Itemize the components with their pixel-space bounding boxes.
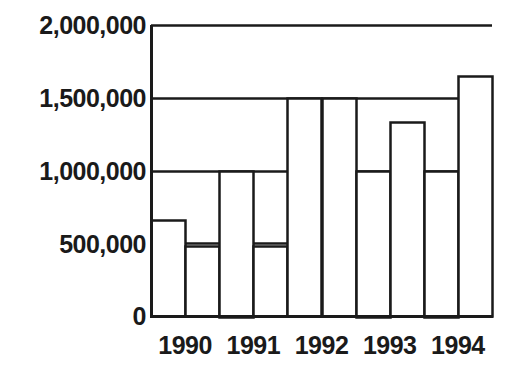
bar-1992-series2 bbox=[323, 99, 357, 317]
x-axis-tick-labels: 1990 1991 1992 1993 1994 bbox=[151, 330, 492, 364]
bar-chart: 2,000,000 1,500,000 1,000,000 500,000 0 … bbox=[0, 0, 514, 368]
bar-1991-series2 bbox=[254, 247, 288, 317]
bar-1990-series1 bbox=[152, 221, 186, 317]
plot-area bbox=[0, 0, 514, 368]
bar-1992-series1 bbox=[288, 99, 322, 317]
x-axis-tick-label-1990: 1990 bbox=[151, 330, 219, 364]
bar-1990-series2 bbox=[186, 247, 220, 317]
x-axis-tick-label-1992: 1992 bbox=[287, 330, 355, 364]
x-axis-tick-label-1994: 1994 bbox=[424, 330, 492, 364]
bar-1991-series1 bbox=[220, 172, 254, 318]
bar-1994-series1 bbox=[425, 172, 459, 318]
x-axis-tick-label-1993: 1993 bbox=[356, 330, 424, 364]
bar-1993-series2 bbox=[391, 123, 425, 317]
bar-1993-series1 bbox=[357, 172, 391, 318]
x-axis-tick-label-1991: 1991 bbox=[219, 330, 287, 364]
bar-group bbox=[152, 77, 493, 318]
bar-1994-series2 bbox=[459, 77, 493, 317]
